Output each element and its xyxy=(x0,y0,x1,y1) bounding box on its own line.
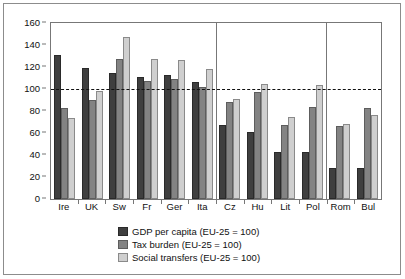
y-axis: 020406080100120140160 xyxy=(12,22,46,198)
x-tick-label: Cz xyxy=(216,200,244,216)
y-tick-mark xyxy=(42,176,46,177)
bar-group xyxy=(79,23,107,199)
bar xyxy=(151,59,158,199)
x-tick-label: Ita xyxy=(188,200,216,216)
x-tick-label: Fr xyxy=(133,200,161,216)
y-tick-label: 100 xyxy=(24,83,40,94)
bar xyxy=(109,73,116,200)
y-tick-mark xyxy=(42,66,46,67)
bar xyxy=(226,102,233,199)
y-tick-label: 60 xyxy=(29,127,40,138)
legend-label-social: Social transfers (EU-25 = 100) xyxy=(132,252,260,263)
group-separator xyxy=(326,23,327,199)
bar xyxy=(68,118,75,199)
bar-group xyxy=(106,23,134,199)
bar xyxy=(164,75,171,199)
bar xyxy=(371,115,378,199)
legend-swatch-tax-icon xyxy=(118,240,128,249)
bar xyxy=(171,79,178,199)
y-tick-mark xyxy=(42,88,46,89)
y-tick-mark xyxy=(42,22,46,23)
bar xyxy=(54,55,61,199)
bar xyxy=(261,84,268,200)
x-tick-mark xyxy=(133,200,134,204)
bar xyxy=(192,82,199,199)
bar xyxy=(116,59,123,199)
bar xyxy=(178,60,185,199)
bar xyxy=(233,99,240,199)
bar-group xyxy=(134,23,162,199)
x-tick-mark xyxy=(216,200,217,204)
x-tick-mark xyxy=(271,200,272,204)
x-tick-label: Lit xyxy=(271,200,299,216)
bar-group xyxy=(161,23,189,199)
bar-group xyxy=(51,23,79,199)
legend-item-gdp: GDP per capita (EU-25 = 100) xyxy=(118,225,260,237)
bar xyxy=(123,37,130,199)
y-tick-label: 160 xyxy=(24,17,40,28)
y-tick-label: 120 xyxy=(24,61,40,72)
x-tick-label: Hu xyxy=(244,200,272,216)
y-tick-label: 80 xyxy=(29,105,40,116)
legend-swatch-social-icon xyxy=(118,253,128,262)
bar-group xyxy=(271,23,299,199)
bar-group xyxy=(189,23,217,199)
x-tick-label: Bul xyxy=(354,200,382,216)
bar xyxy=(343,124,350,199)
bar xyxy=(247,132,254,199)
bar xyxy=(357,168,364,199)
bar xyxy=(254,92,261,199)
x-tick-label: Ire xyxy=(50,200,78,216)
bar xyxy=(219,125,226,199)
y-tick-label: 40 xyxy=(29,149,40,160)
x-tick-mark xyxy=(105,200,106,204)
bar-group xyxy=(244,23,272,199)
x-tick-mark xyxy=(78,200,79,204)
bar-group xyxy=(299,23,327,199)
legend-item-social: Social transfers (EU-25 = 100) xyxy=(118,251,260,263)
y-tick-mark xyxy=(42,198,46,199)
legend-label-gdp: GDP per capita (EU-25 = 100) xyxy=(132,226,259,237)
x-tick-mark xyxy=(188,200,189,204)
bar xyxy=(316,85,323,199)
plot-area xyxy=(50,22,382,200)
bar xyxy=(274,152,281,199)
bar xyxy=(281,125,288,199)
bar-group xyxy=(326,23,354,199)
bar xyxy=(336,126,343,199)
x-tick-mark xyxy=(354,200,355,204)
y-tick-label: 140 xyxy=(24,39,40,50)
x-tick-mark xyxy=(299,200,300,204)
y-tick-mark xyxy=(42,154,46,155)
x-tick-label: UK xyxy=(78,200,106,216)
chart-screenshot: 020406080100120140160 IreUKSwFrGerItaCzH… xyxy=(0,0,405,279)
bar xyxy=(302,152,309,199)
x-tick-label: Pol xyxy=(299,200,327,216)
bar-group xyxy=(354,23,382,199)
chart-area: 020406080100120140160 IreUKSwFrGerItaCzH… xyxy=(12,10,390,215)
x-tick-label: Sw xyxy=(105,200,133,216)
bar xyxy=(96,91,103,199)
bar xyxy=(61,108,68,199)
bar xyxy=(82,68,89,199)
y-tick-mark xyxy=(42,44,46,45)
chart-legend: GDP per capita (EU-25 = 100) Tax burden … xyxy=(118,225,260,263)
bar xyxy=(364,108,371,199)
legend-label-tax: Tax burden (EU-25 = 100) xyxy=(132,239,242,250)
x-tick-mark xyxy=(327,200,328,204)
y-tick-mark xyxy=(42,110,46,111)
y-tick-label: 0 xyxy=(35,193,40,204)
legend-swatch-gdp-icon xyxy=(118,227,128,236)
bar xyxy=(288,117,295,200)
x-axis: IreUKSwFrGerItaCzHuLitPolRomBul xyxy=(50,200,382,216)
y-tick-label: 20 xyxy=(29,171,40,182)
bar xyxy=(309,107,316,199)
bar xyxy=(199,87,206,199)
legend-item-tax: Tax burden (EU-25 = 100) xyxy=(118,238,260,250)
plot-inner xyxy=(51,23,381,199)
y-tick-mark xyxy=(42,132,46,133)
x-tick-mark xyxy=(244,200,245,204)
x-tick-mark xyxy=(161,200,162,204)
bar xyxy=(144,81,151,199)
bar xyxy=(329,168,336,199)
